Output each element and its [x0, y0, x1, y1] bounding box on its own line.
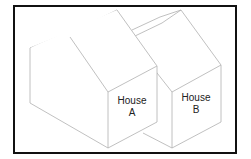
houses-drawing [0, 0, 251, 159]
house-b-label-line2: B [176, 104, 216, 116]
house-b-label-line1: House [176, 92, 216, 104]
house-a-label-line2: A [112, 107, 152, 119]
house-b-label: House B [176, 92, 216, 116]
house-a-label: House A [112, 95, 152, 119]
house-a-label-line1: House [112, 95, 152, 107]
house-a-outline [30, 10, 157, 148]
